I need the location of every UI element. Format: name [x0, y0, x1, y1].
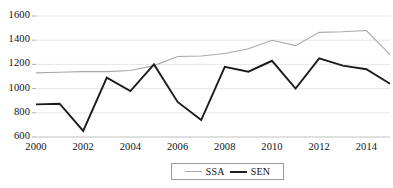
legend-label-ssa: SSA: [206, 166, 225, 177]
legend-line-swatch-ssa: [185, 171, 202, 172]
gridlines: [32, 16, 390, 137]
legend-line-swatch-sen: [230, 171, 247, 173]
line-chart: 6008001000120014001600 20002002200420062…: [0, 0, 393, 188]
chart-plot-area: [0, 0, 393, 188]
y-tick-label: 1000: [0, 82, 30, 93]
x-tick-label: 2008: [205, 141, 245, 152]
x-tick-label: 2004: [110, 141, 150, 152]
y-tick-label: 1600: [0, 9, 30, 20]
y-tick-label: 800: [0, 106, 30, 117]
legend-item-sen: SEN: [230, 166, 271, 177]
y-tick-label: 1400: [0, 33, 30, 44]
chart-legend: SSA SEN: [171, 163, 284, 180]
x-tick-label: 2014: [346, 141, 386, 152]
x-tick-label: 2002: [63, 141, 103, 152]
x-tick-label: 2010: [252, 141, 292, 152]
y-tick-label: 600: [0, 130, 30, 141]
x-tick-label: 2000: [16, 141, 56, 152]
series-line-sen: [36, 58, 390, 131]
legend-label-sen: SEN: [251, 166, 271, 177]
y-tick-label: 1200: [0, 57, 30, 68]
series-line-ssa: [36, 31, 390, 73]
legend-item-ssa: SSA: [185, 166, 225, 177]
x-tick-label: 2006: [158, 141, 198, 152]
x-tick-label: 2012: [299, 141, 339, 152]
series-lines: [36, 31, 390, 131]
